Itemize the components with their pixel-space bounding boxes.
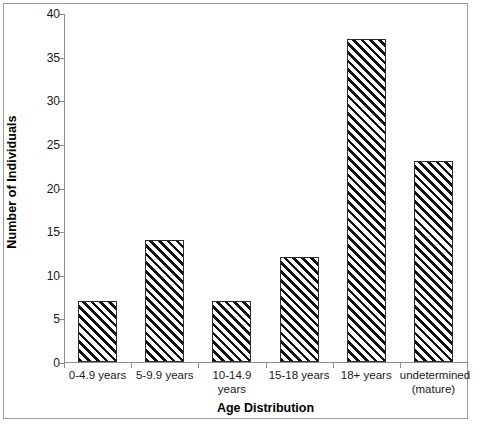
bar <box>145 240 184 362</box>
bar <box>212 301 251 362</box>
y-axis-title: Number of Individuals <box>2 0 22 363</box>
y-tick-label: 0 <box>30 356 60 370</box>
x-tick-label-line: 18+ years <box>333 368 400 382</box>
x-tick-label: 15-18 years <box>266 368 333 382</box>
x-tick-label-line: undetermined <box>400 368 467 382</box>
x-tick-label-line: (mature) <box>400 382 467 396</box>
x-tick-mark <box>467 363 468 368</box>
y-axis-line <box>64 14 65 363</box>
y-tick-label: 10 <box>30 269 60 283</box>
x-tick-label: 5-9.9 years <box>131 368 198 382</box>
y-axis-title-text: Number of Individuals <box>5 115 19 248</box>
x-axis-title: Age Distribution <box>64 401 467 415</box>
x-tick-label-line: 15-18 years <box>266 368 333 382</box>
y-tick-label: 20 <box>30 182 60 196</box>
y-tick-label: 15 <box>30 225 60 239</box>
y-tick-label: 35 <box>30 51 60 65</box>
y-tick-label: 5 <box>30 312 60 326</box>
x-tick-label-line: 0-4.9 years <box>64 368 131 382</box>
y-tick-label: 30 <box>30 94 60 108</box>
y-tick-label: 25 <box>30 138 60 152</box>
x-tick-label: 0-4.9 years <box>64 368 131 382</box>
x-tick-label: 18+ years <box>333 368 400 382</box>
bar <box>280 257 319 362</box>
plot-area <box>64 14 467 363</box>
bar <box>78 301 117 362</box>
bar <box>414 161 453 362</box>
x-axis-tick-labels: 0-4.9 years5-9.9 years10-14.9 years15-18… <box>64 368 467 402</box>
x-tick-label: 10-14.9 years <box>198 368 265 396</box>
x-tick-label: undetermined(mature) <box>400 368 467 396</box>
bar <box>347 39 386 362</box>
chart-figure: Number of Individuals 0510152025303540 0… <box>0 0 481 428</box>
y-tick-label: 40 <box>30 7 60 21</box>
x-tick-label-line: 5-9.9 years <box>131 368 198 382</box>
y-axis-tick-labels: 0510152025303540 <box>20 14 60 363</box>
x-tick-label-line: 10-14.9 years <box>198 368 265 396</box>
